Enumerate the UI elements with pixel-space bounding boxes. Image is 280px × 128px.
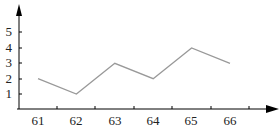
y-tick-label: 1 — [6, 86, 13, 101]
y-tick-labels: 1 2 3 4 5 — [6, 24, 13, 101]
y-tick-label: 4 — [6, 40, 13, 55]
x-tick-label: 66 — [224, 113, 238, 128]
x-axis-arrow-icon — [266, 105, 279, 113]
x-tick-label: 65 — [185, 113, 198, 128]
x-tick-labels: 61 62 63 64 65 66 — [32, 113, 238, 128]
x-tick-label: 61 — [32, 113, 45, 128]
y-tick-label: 5 — [6, 24, 13, 39]
x-tick-label: 62 — [70, 113, 83, 128]
x-tick-label: 63 — [109, 113, 122, 128]
data-series-line — [38, 48, 230, 94]
y-tick-label: 3 — [6, 55, 13, 70]
line-chart: 1 2 3 4 5 61 62 63 64 65 66 — [0, 0, 280, 128]
x-tick-label: 64 — [147, 113, 161, 128]
y-axis-arrow-icon — [16, 4, 22, 16]
y-tick-label: 2 — [6, 71, 13, 86]
